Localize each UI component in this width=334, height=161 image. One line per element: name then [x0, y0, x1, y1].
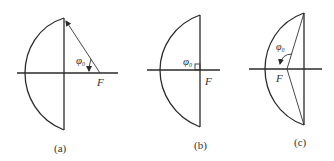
focus-label-b: F: [204, 75, 212, 87]
ray-lower-c: [287, 69, 304, 125]
ray-upper-c: [287, 13, 304, 69]
caption-c: (c): [294, 136, 307, 149]
angle-arc-a: [89, 59, 91, 71]
angle-label-b: φ0: [183, 55, 192, 68]
figure-a: φ0 F (a): [17, 18, 118, 155]
figure-b: φ0 F (b): [147, 15, 220, 152]
right-angle-marker-b: [195, 64, 200, 70]
figure-c: φ0 F (c): [249, 13, 322, 149]
reflector-diagrams: φ0 F (a) φ0 F (b) φ0 F (c): [0, 0, 334, 161]
angle-label-a: φ0: [76, 54, 85, 67]
focus-label-a: F: [96, 76, 104, 88]
caption-b: (b): [194, 139, 207, 152]
angle-label-c: φ0: [276, 41, 285, 53]
caption-a: (a): [54, 142, 67, 155]
reflector-arc-b: [160, 15, 200, 127]
focus-label-c: F: [275, 72, 283, 84]
reflector-arc-a: [25, 18, 64, 130]
